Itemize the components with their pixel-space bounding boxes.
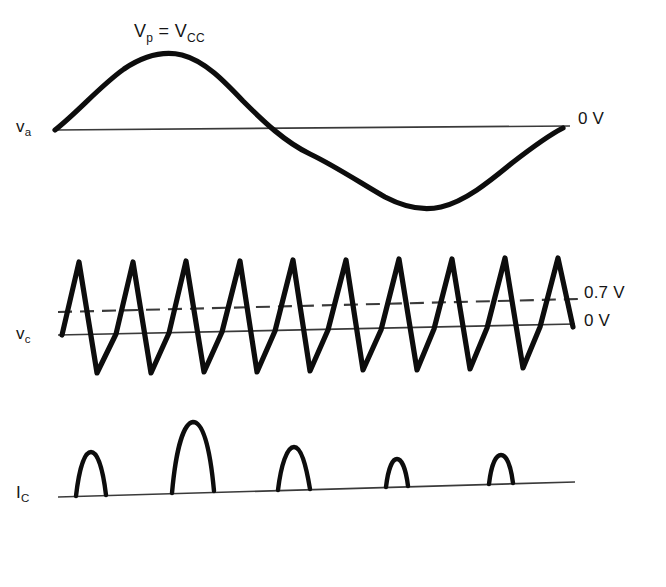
current-pulse-2	[172, 422, 214, 493]
current-pulse-3	[278, 447, 310, 490]
signal-label-va: va	[16, 118, 31, 139]
signal-label-vc-main: v	[16, 324, 25, 343]
peak-label-vp-sub2: CC	[187, 31, 205, 45]
current-pulse-4	[386, 459, 408, 487]
peak-label-vp: Vp = VCC	[134, 22, 205, 44]
current-pulse-1	[76, 452, 106, 496]
threshold-label-07v: 0.7 V	[584, 284, 625, 301]
panel-collector-current	[58, 422, 575, 497]
signal-label-va-main: v	[16, 117, 25, 136]
carrier-trace-vc	[62, 258, 573, 373]
signal-label-ic-sub: C	[21, 492, 30, 504]
signal-label-va-sub: a	[25, 126, 32, 138]
waveform-canvas	[0, 0, 666, 587]
signal-label-ic: IC	[16, 484, 29, 505]
signal-label-vc: vc	[16, 325, 31, 346]
zero-axis-line-va	[55, 126, 570, 130]
zero-volt-label-middle: 0 V	[584, 312, 610, 329]
zero-axis-line-vc	[58, 324, 575, 335]
sine-trace-va	[55, 54, 563, 209]
panel-input-signal	[55, 54, 570, 209]
peak-label-vp-main: V	[134, 21, 146, 41]
signal-label-vc-sub: c	[25, 333, 31, 345]
peak-label-vp-eq: = V	[153, 21, 187, 41]
current-pulse-5	[489, 455, 513, 484]
panel-base-voltage	[58, 258, 578, 373]
waveform-figure: va Vp = VCC 0 V vc 0.7 V 0 V IC	[0, 0, 666, 587]
threshold-line-07v	[58, 299, 578, 312]
zero-axis-line-ic	[58, 482, 575, 497]
zero-volt-label-top: 0 V	[578, 110, 604, 127]
